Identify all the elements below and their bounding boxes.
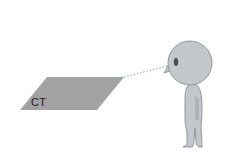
eye-icon: [174, 58, 178, 66]
figure-body: [183, 84, 202, 147]
sight-line: [124, 66, 167, 77]
diagram-canvas: [0, 0, 229, 159]
observer-figure: [164, 41, 212, 147]
ct-plane-label: CT: [31, 96, 46, 108]
